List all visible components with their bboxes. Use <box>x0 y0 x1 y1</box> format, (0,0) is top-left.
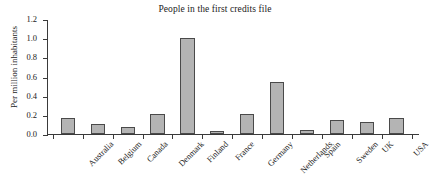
x-tick <box>53 135 54 139</box>
x-tick <box>143 135 144 139</box>
x-tick-label: France <box>233 139 256 162</box>
y-tick: 0.4 <box>43 97 47 98</box>
y-tick-label: 0.6 <box>26 72 37 83</box>
x-tick <box>292 135 293 139</box>
bar <box>270 82 284 134</box>
x-tick-label: USA <box>411 139 430 158</box>
x-tick <box>83 135 84 139</box>
x-tick <box>113 135 114 139</box>
bar <box>300 130 314 134</box>
chart-title: People in the first credits file <box>0 4 430 14</box>
y-tick: 0.8 <box>43 58 47 59</box>
bar <box>360 122 374 134</box>
bar <box>240 114 254 134</box>
bar <box>389 118 403 134</box>
y-tick-label: 0.8 <box>26 52 37 63</box>
y-axis-label: Per million inhabitants <box>9 12 19 122</box>
x-tick <box>412 135 413 139</box>
x-tick <box>172 135 173 139</box>
y-tick-label: 0.0 <box>26 129 37 140</box>
y-tick: 0.2 <box>43 116 47 117</box>
y-tick-label: 1.2 <box>26 14 37 25</box>
bar <box>330 120 344 134</box>
y-tick: 0.0 <box>43 135 47 136</box>
bar <box>150 114 164 134</box>
bar <box>61 118 75 134</box>
y-tick-label: 0.4 <box>26 91 37 102</box>
x-tick <box>322 135 323 139</box>
bar-chart: People in the first credits file Per mil… <box>0 0 430 196</box>
x-tick <box>382 135 383 139</box>
y-tick: 1.0 <box>43 39 47 40</box>
x-tick-label: UK <box>379 139 395 155</box>
x-tick <box>352 135 353 139</box>
x-tick-label: Australia <box>86 139 115 168</box>
bar <box>210 131 224 134</box>
y-tick-label: 0.2 <box>26 110 37 121</box>
x-tick <box>202 135 203 139</box>
y-tick: 1.2 <box>43 20 47 21</box>
y-axis-line <box>47 20 48 136</box>
x-tick-label: Denmark <box>176 139 205 168</box>
x-tick-label: Finland <box>204 139 229 164</box>
x-tick-label: Belgium <box>116 139 144 167</box>
x-tick-label: Germany <box>266 139 295 168</box>
bar <box>91 124 105 134</box>
x-tick-label: Sweden <box>354 139 380 165</box>
bar <box>121 127 135 134</box>
y-tick-label: 1.0 <box>26 33 37 44</box>
x-tick <box>232 135 233 139</box>
y-tick: 0.6 <box>43 78 47 79</box>
bar <box>180 38 194 134</box>
x-tick-label: Canada <box>144 139 169 164</box>
x-tick <box>262 135 263 139</box>
plot-area: 0.00.20.40.60.81.01.2 <box>47 20 419 135</box>
